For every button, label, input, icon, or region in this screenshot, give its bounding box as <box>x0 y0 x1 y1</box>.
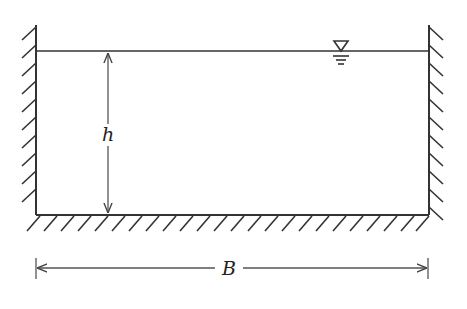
right-wall <box>429 25 443 220</box>
left-wall <box>22 25 36 215</box>
free-surface-triangle-icon <box>333 41 349 64</box>
channel-diagram: h B <box>0 0 467 309</box>
channel-bed <box>27 215 429 231</box>
width-dimension: B <box>36 256 428 280</box>
width-label: B <box>221 257 236 279</box>
depth-label: h <box>102 123 114 145</box>
